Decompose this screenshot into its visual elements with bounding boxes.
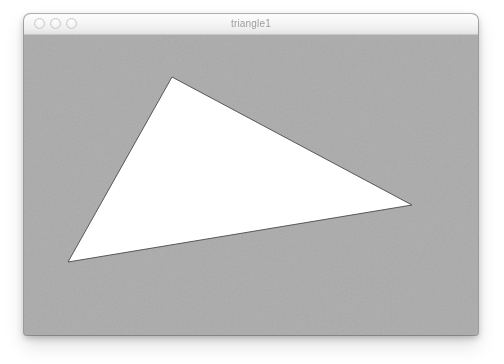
shape-layer (24, 35, 478, 335)
window-title: triangle1 (24, 17, 478, 31)
triangle-shape[interactable] (68, 77, 412, 262)
app-window: triangle1 (24, 14, 478, 335)
title-bar[interactable]: triangle1 (24, 14, 478, 35)
drawing-canvas[interactable] (24, 35, 478, 335)
